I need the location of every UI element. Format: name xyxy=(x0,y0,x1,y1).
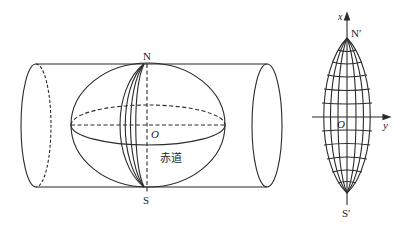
cylinder-left-end-hidden xyxy=(36,64,51,187)
label-south: S xyxy=(143,194,149,206)
projected-zone xyxy=(312,13,390,205)
label-origin-right: O xyxy=(337,118,345,130)
label-north: N xyxy=(143,50,151,62)
meridian-2 xyxy=(125,64,144,187)
projection-diagram: N S O 赤道 x N′ O y S′ xyxy=(0,0,407,229)
cylinder-right-end xyxy=(252,64,282,187)
equator-front xyxy=(71,125,225,145)
equator-back xyxy=(71,105,225,125)
label-origin-left: O xyxy=(151,128,159,140)
label-y-axis: y xyxy=(382,119,388,131)
cylinder-left-end-front xyxy=(21,64,36,187)
label-equator: 赤道 xyxy=(160,151,182,165)
globe xyxy=(71,63,225,194)
label-south-prime: S′ xyxy=(342,207,351,219)
x-axis-arrow-icon xyxy=(345,13,350,20)
label-x-axis: x xyxy=(337,11,343,22)
label-north-prime: N′ xyxy=(351,27,361,39)
